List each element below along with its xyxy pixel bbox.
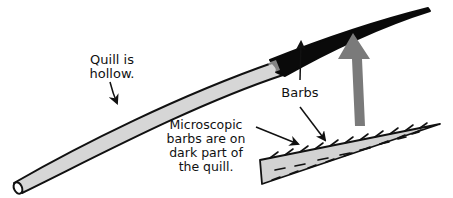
label-line: Barbs bbox=[276, 86, 324, 100]
label-line: Quill is bbox=[84, 53, 140, 67]
magnified-barbed-tip bbox=[260, 123, 440, 184]
label-line: Microscopic bbox=[156, 118, 256, 132]
label-line: barbs are on bbox=[156, 132, 256, 146]
hollow-pointer-arrow bbox=[110, 82, 117, 103]
label-line: hollow. bbox=[84, 67, 140, 81]
barbs-down-arrow bbox=[300, 107, 325, 140]
quill-diagram: Quill is hollow. Barbs Microscopic barbs… bbox=[0, 0, 453, 198]
label-barbs: Barbs bbox=[276, 86, 324, 100]
label-quill-hollow: Quill is hollow. bbox=[84, 53, 140, 81]
label-line: dark part of bbox=[156, 146, 256, 160]
magnify-arrow-icon bbox=[338, 33, 370, 126]
microscopic-pointer-arrow bbox=[256, 127, 298, 144]
barbs-up-arrow bbox=[300, 42, 301, 80]
label-microscopic-barbs: Microscopic barbs are on dark part of th… bbox=[156, 118, 256, 174]
label-line: the quill. bbox=[156, 160, 256, 174]
